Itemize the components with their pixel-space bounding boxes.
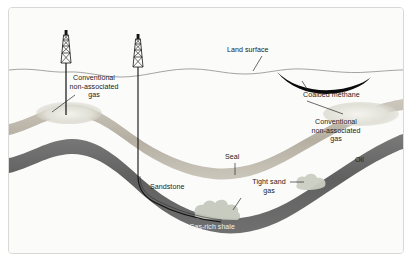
- label-tight-sand-line2: gas: [247, 187, 291, 196]
- label-oil: Oil: [355, 156, 364, 165]
- label-conventional-left-line2: non-associated: [58, 83, 130, 92]
- label-conventional-right-line1: Conventional: [300, 118, 372, 127]
- label-coalbed-methane: Coalbed methane: [303, 91, 360, 100]
- label-conventional-left-line3: gas: [58, 91, 130, 100]
- label-gas-rich-shale: Gas-rich shale: [189, 223, 235, 232]
- label-conventional-right-line2: non-associated: [300, 127, 372, 136]
- label-seal: Seal: [225, 153, 239, 162]
- diagram-frame: Land surface Coalbed methane Conventiona…: [8, 7, 404, 254]
- label-conventional-left-line1: Conventional: [58, 74, 130, 83]
- label-land-surface: Land surface: [227, 46, 269, 55]
- label-tight-sand-line1: Tight sand: [247, 178, 291, 187]
- figure-root: Land surface Coalbed methane Conventiona…: [0, 0, 413, 262]
- label-conventional-right-line3: gas: [300, 135, 372, 144]
- label-sandstone: Sandstone: [150, 183, 184, 192]
- conventional-gas-anticline: [36, 102, 102, 124]
